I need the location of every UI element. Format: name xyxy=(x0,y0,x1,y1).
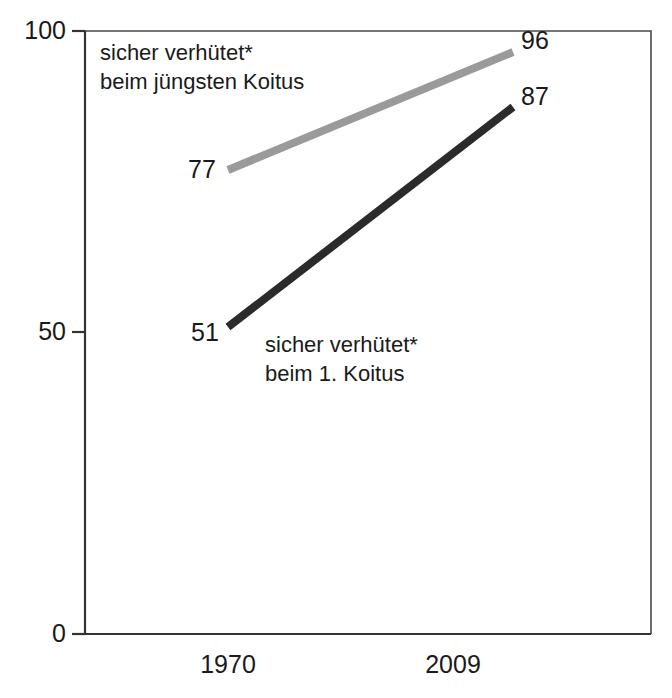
series-line-dark xyxy=(228,107,513,327)
x-tick-label-1970: 1970 xyxy=(168,652,288,677)
y-tick-label-0: 0 xyxy=(4,621,66,646)
x-tick-label-2009: 2009 xyxy=(393,652,513,677)
series-annotation-dark-line2: beim 1. Koitus xyxy=(265,359,418,388)
series-annotation-dark-line1: sicher verhütet* xyxy=(265,330,418,359)
slope-chart: · 100 50 0 1970 2009 sicher verhütet* be… xyxy=(0,0,672,698)
series-annotation-dark: sicher verhütet* beim 1. Koitus xyxy=(265,330,418,388)
series-annotation-gray-line1: sicher verhütet* xyxy=(100,38,304,67)
value-label-gray-start: 77 xyxy=(188,157,216,182)
value-label-dark-end: 87 xyxy=(521,84,549,109)
series-annotation-gray-line2: beim jüngsten Koitus xyxy=(100,67,304,96)
y-tick-label-50: 50 xyxy=(4,319,66,344)
value-label-dark-start: 51 xyxy=(191,320,219,345)
series-annotation-gray: sicher verhütet* beim jüngsten Koitus xyxy=(100,38,304,96)
value-label-gray-end: 96 xyxy=(521,28,549,53)
y-tick-label-100: 100 xyxy=(4,18,66,43)
